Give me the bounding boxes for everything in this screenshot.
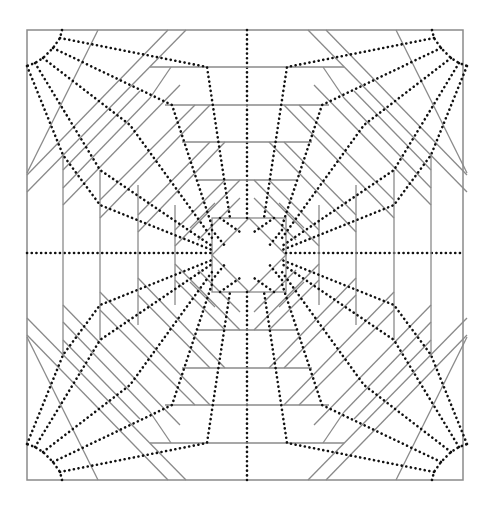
quadrant-bottom-right — [247, 255, 467, 480]
center-square — [212, 218, 286, 292]
center-axis-folds — [27, 30, 463, 480]
paper-border — [27, 30, 463, 480]
quadrant-top-left — [27, 30, 247, 255]
crease-pattern-diagram — [0, 0, 491, 505]
center-diamond — [212, 218, 286, 292]
quadrant-bottom-left — [27, 255, 247, 480]
quadrant-top-right — [247, 30, 467, 255]
